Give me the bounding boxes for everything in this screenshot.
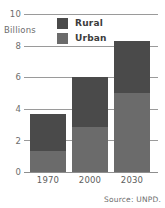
chart-legend: Rural Urban (57, 17, 109, 47)
bar-2000-segment-urban (72, 127, 108, 172)
bar-2030-segment-rural (114, 41, 150, 93)
bar-1970-segment-urban (30, 151, 66, 172)
bar-1970 (30, 114, 66, 173)
x-tick-label-1970: 1970 (30, 175, 66, 185)
y-tick-label-2: 2 (0, 137, 21, 146)
y-tick-label-4: 4 (0, 105, 21, 114)
bar-2000-segment-rural (72, 77, 108, 127)
y-tick-label-0: 0 (0, 168, 21, 177)
legend-label-urban: Urban (73, 33, 109, 44)
legend-swatch-urban-icon (57, 33, 68, 44)
x-tick-label-2000: 2000 (72, 175, 108, 185)
gridline-10 (24, 14, 158, 15)
x-axis-baseline (24, 172, 158, 173)
y-tick-label-10: 10 (0, 10, 21, 19)
bar-2030-segment-urban (114, 93, 150, 172)
bar-2000 (72, 77, 108, 172)
x-tick-label-2030: 2030 (114, 175, 150, 185)
bar-2030 (114, 41, 150, 172)
bar-1970-segment-rural (30, 114, 66, 151)
stacked-bar-chart: Billions 10 8 6 4 2 0 1970 2000 2030 (0, 0, 165, 208)
y-tick-label-8: 8 (0, 42, 21, 51)
legend-label-rural: Rural (73, 18, 105, 29)
source-note: Source: UNPD. (104, 195, 161, 204)
legend-item-urban: Urban (57, 32, 109, 45)
legend-item-rural: Rural (57, 17, 109, 30)
y-tick-label-6: 6 (0, 73, 21, 82)
legend-swatch-rural-icon (57, 18, 68, 29)
